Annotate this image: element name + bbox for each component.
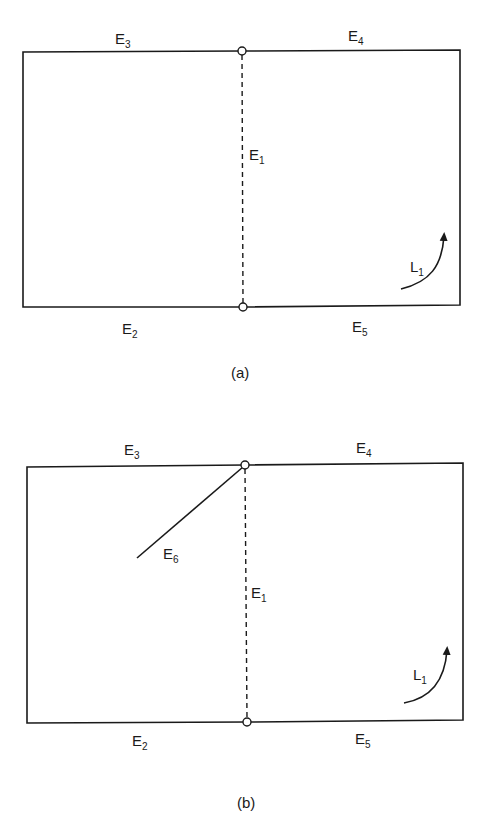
diagram-canvas: E3 E4 E1 E2 E5 L1 (a) E3 E4 E6 E1 E2 E5 … [0, 0, 488, 835]
node-bottom-a [239, 303, 247, 311]
edge-e6-b [137, 467, 243, 558]
loop-arrow-a [401, 236, 444, 289]
edge-e4-e5-a [242, 50, 460, 307]
figure-a: E3 E4 E1 E2 E5 L1 (a) [23, 27, 460, 381]
caption-a: (a) [231, 364, 249, 381]
label-l1-a: L1 [410, 258, 424, 278]
label-e5-a: E5 [352, 318, 368, 338]
edge-e3-a [23, 51, 242, 307]
label-l1-b: L1 [413, 666, 427, 686]
label-e1-a: E1 [249, 146, 265, 166]
edge-e3-b [27, 465, 247, 723]
label-e4-a: E4 [348, 27, 364, 47]
node-bottom-b [243, 718, 251, 726]
label-e1-b: E1 [251, 584, 267, 604]
caption-b: (b) [237, 794, 255, 811]
node-top-b [241, 461, 249, 469]
label-e5-b: E5 [355, 730, 371, 750]
figure-b: E3 E4 E6 E1 E2 E5 L1 (b) [27, 439, 463, 811]
label-e2-b: E2 [132, 732, 148, 752]
label-e6-b: E6 [163, 545, 179, 565]
label-e3-b: E3 [124, 441, 140, 461]
node-top-a [238, 47, 246, 55]
label-e4-b: E4 [356, 439, 372, 459]
label-e3-a: E3 [115, 30, 131, 50]
edge-e4-e5-b [245, 463, 463, 722]
edge-e1-a [242, 55, 243, 303]
label-e2-a: E2 [122, 320, 138, 340]
edge-e1-b [245, 469, 247, 718]
